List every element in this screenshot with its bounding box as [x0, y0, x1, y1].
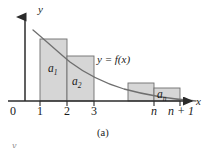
x-tick-label-2: 2: [64, 105, 70, 117]
integral-test-figure: y x 0 1 2 3 n n + 1 a1 a2 an y = f(x) (a…: [0, 0, 207, 148]
bar-label-a1: a1: [48, 63, 58, 77]
bar-label-a2: a2: [72, 76, 82, 90]
next-figure-y-axis-label: y: [12, 140, 16, 148]
bar-label-an: an: [157, 89, 167, 103]
x-tick-label-1: 1: [37, 105, 43, 117]
x-tick-label-n-plus-1: n + 1: [168, 105, 194, 117]
x-axis-label: x: [196, 96, 201, 107]
y-axis-label: y: [38, 4, 43, 15]
origin-label: 0: [10, 105, 16, 117]
x-tick-label-n: n: [151, 105, 157, 117]
bar-label-a2-sub: 2: [78, 81, 82, 90]
x-tick-label-3: 3: [91, 105, 97, 117]
figure-caption: (a): [97, 127, 109, 138]
bar-unlabeled: [128, 83, 154, 101]
figure-graphic: [0, 0, 207, 148]
function-label: y = f(x): [97, 54, 130, 65]
bar-label-an-sub: n: [163, 94, 167, 103]
bar-label-a1-sub: 1: [54, 68, 58, 77]
